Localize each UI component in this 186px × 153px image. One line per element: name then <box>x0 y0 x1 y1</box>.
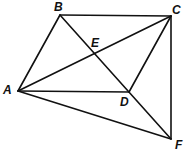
geometry-diagram: B C E A D F <box>0 0 186 153</box>
segment-AF <box>18 91 171 139</box>
label-E: E <box>91 37 99 49</box>
segment-AD <box>18 91 129 92</box>
label-D: D <box>120 96 129 108</box>
diagram-lines <box>0 0 186 153</box>
label-A: A <box>3 84 12 96</box>
segment-CD <box>129 16 171 92</box>
segment-AB <box>18 15 60 91</box>
segment-BC <box>60 15 171 16</box>
label-C: C <box>172 4 181 16</box>
segment-BF <box>60 15 171 139</box>
label-B: B <box>54 1 63 13</box>
label-F: F <box>175 139 182 151</box>
